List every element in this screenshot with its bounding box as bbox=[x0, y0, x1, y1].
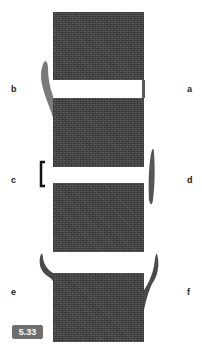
figure-number-badge: 5.33 bbox=[12, 325, 43, 339]
label-c: c bbox=[11, 175, 16, 185]
tissue-shapes bbox=[0, 0, 202, 352]
label-b: b bbox=[11, 84, 17, 94]
hook-e bbox=[40, 254, 53, 281]
label-a: a bbox=[187, 84, 192, 94]
label-f: f bbox=[187, 287, 190, 297]
tissue-b bbox=[41, 61, 53, 118]
bracket-c bbox=[41, 162, 45, 186]
tissue-d bbox=[149, 149, 155, 204]
label-d: d bbox=[187, 175, 193, 185]
label-e: e bbox=[11, 287, 16, 297]
hook-f bbox=[144, 254, 158, 310]
band-a bbox=[142, 80, 145, 98]
